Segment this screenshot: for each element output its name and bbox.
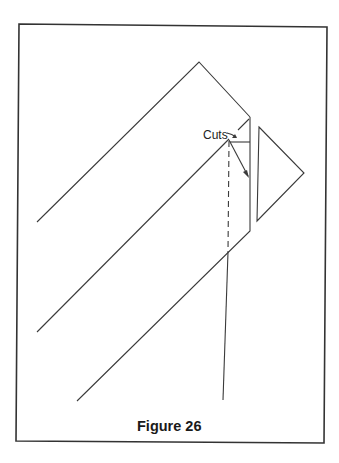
figure-caption: Figure 26	[137, 418, 201, 434]
cut-triangle-piece	[257, 127, 304, 221]
dashed-fold-line	[228, 141, 229, 252]
strip-middle-edge	[37, 139, 229, 332]
figure-26-diagram: Cuts Figure 26	[0, 0, 339, 463]
inner-fold-line	[238, 119, 249, 130]
vertical-line	[223, 252, 228, 400]
arrowhead-icon	[243, 170, 249, 178]
figure-frame	[16, 24, 327, 443]
cut-arrow-line	[229, 140, 248, 176]
cuts-label: Cuts	[203, 128, 228, 142]
strip-top-edge	[37, 62, 250, 222]
